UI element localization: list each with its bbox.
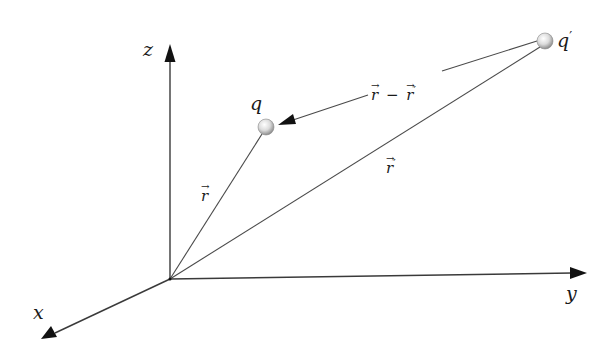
vector-r-line (170, 134, 262, 279)
vector-r-minus-r-prime-label: →r − →r′ (371, 85, 416, 103)
charge-q-prime-label: q′ (557, 30, 572, 50)
z-axis-arrowhead-icon (165, 44, 176, 62)
vector-r-label: →r (201, 189, 208, 204)
y-axis-arrowhead-icon (570, 267, 587, 279)
x-axis-label: x (33, 303, 44, 322)
charge-q-sphere (258, 119, 274, 135)
vector-r-prime-label: →r′ (386, 158, 396, 176)
coulomb-diagram: z y x q q′ →r →r′ →r − →r′ (0, 0, 616, 356)
charge-q-prime-sphere (537, 33, 553, 49)
origin-point (169, 278, 172, 281)
z-axis (165, 44, 176, 279)
displacement-arrowhead-icon (278, 114, 296, 125)
vector-r-prime-line (170, 47, 540, 279)
x-axis (41, 279, 170, 339)
diagram-canvas (0, 0, 616, 356)
z-axis-label: z (143, 40, 153, 59)
x-axis-arrowhead-icon (41, 326, 57, 339)
y-axis-label: y (566, 284, 577, 303)
y-axis (170, 267, 587, 279)
charge-q-label: q (250, 94, 262, 113)
